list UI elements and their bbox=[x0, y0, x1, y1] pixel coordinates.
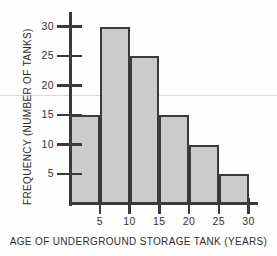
histogram-chart: FREQUENCY (NUMBER OF TANKS) AGE OF UNDER… bbox=[0, 0, 277, 256]
x-axis-tick bbox=[158, 198, 161, 214]
x-axis-title: AGE OF UNDERGROUND STORAGE TANK (YEARS) bbox=[0, 236, 277, 247]
x-axis-tick bbox=[99, 198, 102, 214]
y-axis-tick-label: 10 bbox=[28, 138, 54, 150]
x-axis-tick-label: 5 bbox=[87, 215, 113, 227]
y-axis-tick-label: 15 bbox=[28, 108, 54, 120]
y-axis-tick bbox=[57, 143, 82, 146]
y-axis-tick bbox=[57, 55, 82, 58]
y-axis-tick-label: 30 bbox=[28, 20, 54, 32]
y-axis-tick bbox=[57, 173, 82, 176]
x-axis-tick bbox=[188, 198, 191, 214]
histogram-bar bbox=[70, 115, 100, 204]
y-axis-tick bbox=[57, 84, 82, 87]
y-axis-tick-label: 20 bbox=[28, 79, 54, 91]
x-axis-tick-label: 30 bbox=[236, 215, 262, 227]
x-axis-tick-label: 25 bbox=[206, 215, 232, 227]
y-axis-tick-label: 5 bbox=[28, 167, 54, 179]
y-axis-tick-label: 25 bbox=[28, 49, 54, 61]
x-axis-tick bbox=[128, 198, 131, 214]
histogram-bar bbox=[130, 56, 160, 204]
x-axis-tick-label: 20 bbox=[176, 215, 202, 227]
histogram-bar bbox=[159, 115, 189, 204]
histogram-bar bbox=[189, 145, 219, 204]
x-axis-tick bbox=[218, 198, 221, 214]
histogram-bar bbox=[219, 174, 249, 204]
histogram-bar bbox=[100, 27, 130, 204]
x-axis-tick-label: 15 bbox=[146, 215, 172, 227]
y-axis-tick bbox=[57, 114, 82, 117]
y-axis-tick bbox=[57, 25, 82, 28]
x-axis-tick-label: 10 bbox=[117, 215, 143, 227]
x-axis-tick bbox=[247, 198, 250, 214]
